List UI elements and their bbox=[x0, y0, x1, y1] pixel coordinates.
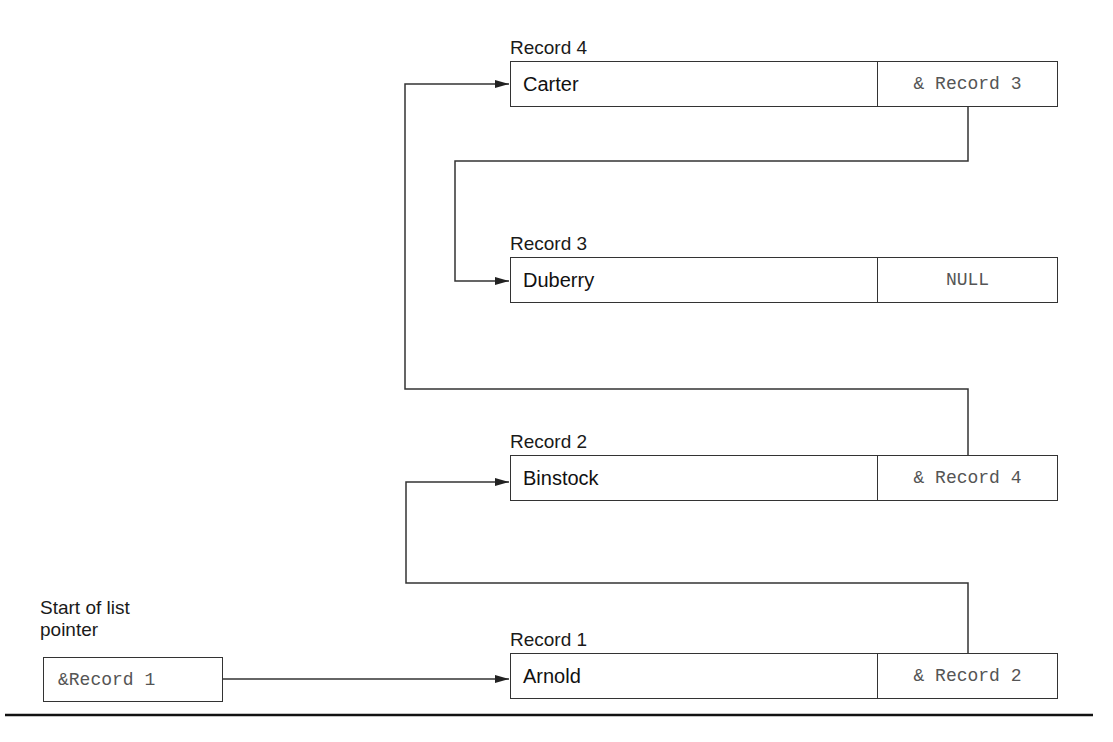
record-1-name: Arnold bbox=[511, 654, 877, 698]
record-1-pointer: & Record 2 bbox=[877, 654, 1057, 698]
record-3-pointer: NULL bbox=[877, 258, 1057, 302]
record-2-pointer: & Record 4 bbox=[877, 456, 1057, 500]
record-1-label: Record 1 bbox=[510, 629, 587, 651]
record-2-node: Binstock & Record 4 bbox=[510, 455, 1058, 501]
record-2-label: Record 2 bbox=[510, 431, 587, 453]
start-pointer-label-line2: pointer bbox=[40, 619, 98, 641]
record-4-pointer: & Record 3 bbox=[877, 62, 1057, 106]
start-pointer-label-line1: Start of list bbox=[40, 597, 130, 619]
start-pointer-box: &Record 1 bbox=[43, 657, 223, 702]
arrow-record1-to-record2 bbox=[406, 482, 968, 653]
record-4-node: Carter & Record 3 bbox=[510, 61, 1058, 107]
record-1-node: Arnold & Record 2 bbox=[510, 653, 1058, 699]
record-3-name: Duberry bbox=[511, 258, 877, 302]
record-3-node: Duberry NULL bbox=[510, 257, 1058, 303]
record-4-name: Carter bbox=[511, 62, 877, 106]
record-2-name: Binstock bbox=[511, 456, 877, 500]
record-3-label: Record 3 bbox=[510, 233, 587, 255]
record-4-label: Record 4 bbox=[510, 37, 587, 59]
